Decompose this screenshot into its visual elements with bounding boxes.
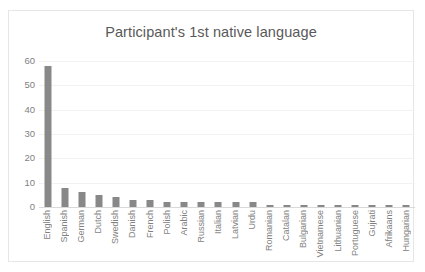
bar-slot (124, 61, 141, 207)
bar[interactable] (164, 202, 171, 207)
bar-slot (398, 61, 415, 207)
bar[interactable] (78, 192, 85, 207)
x-axis-tick-label-text: Russian (197, 210, 206, 243)
x-axis-tick-slot: Lithuanian (330, 210, 347, 272)
x-axis-tick-label: Italian (214, 210, 223, 234)
bar[interactable] (386, 205, 393, 207)
x-axis-tick-label-text: Hungarian (402, 210, 411, 252)
y-axis: 0102030405060 (9, 61, 35, 207)
x-axis-tick-label-text: Lithuanian (334, 210, 343, 252)
x-axis-tick-label: Arabic (180, 210, 189, 236)
x-axis-tick-slot: Swedish (107, 210, 124, 272)
chart-title: Participant's 1st native language (9, 24, 413, 40)
x-axis-tick-label: Gujrati (368, 210, 377, 237)
x-axis-tick-label: Vietnamese (316, 210, 325, 257)
x-axis-tick-slot: Polish (159, 210, 176, 272)
x-axis-tick-slot: Vietnamese (312, 210, 329, 272)
x-axis-line (39, 207, 415, 208)
bar[interactable] (300, 205, 307, 207)
x-axis-tick-label: Swedish (111, 210, 120, 244)
x-axis-tick-label: Spanish (60, 210, 69, 243)
x-axis-tick-slot: Catalan (278, 210, 295, 272)
x-axis-tick-label: Russian (197, 210, 206, 243)
x-axis-tick-label-text: Italian (214, 210, 223, 234)
x-axis-tick-slot: Gujrati (364, 210, 381, 272)
y-axis-tick-label: 10 (9, 178, 35, 188)
x-axis: EnglishSpanishGermanDutchSwedishDanishFr… (39, 210, 415, 272)
bar[interactable] (129, 200, 136, 207)
x-axis-tick-label: Polish (163, 210, 172, 235)
bar-slot (312, 61, 329, 207)
x-axis-tick-label-text: French (146, 210, 155, 238)
x-axis-tick-label: Hungarian (402, 210, 411, 252)
x-axis-tick-label-text: Spanish (60, 210, 69, 243)
bar-slot (39, 61, 56, 207)
x-axis-tick-slot: Afrikaans (381, 210, 398, 272)
chart-container: Participant's 1st native language 010203… (8, 10, 414, 262)
x-axis-tick-slot: Dutch (90, 210, 107, 272)
x-axis-tick-slot: Romanian (261, 210, 278, 272)
x-axis-tick-label-text: Portuguese (351, 210, 360, 256)
x-axis-tick-slot: Bulgarian (295, 210, 312, 272)
bar-slot (227, 61, 244, 207)
y-axis-tick-label: 60 (9, 56, 35, 66)
bar-slot (176, 61, 193, 207)
x-axis-tick-slot: Russian (193, 210, 210, 272)
x-axis-tick-label-text: Polish (163, 210, 172, 235)
x-axis-tick-slot: Latvian (227, 210, 244, 272)
bar[interactable] (215, 202, 222, 207)
x-axis-tick-label-text: Swedish (111, 210, 120, 244)
bar[interactable] (249, 202, 256, 207)
x-axis-tick-slot: Portuguese (347, 210, 364, 272)
x-axis-tick-slot: Danish (124, 210, 141, 272)
x-axis-tick-label-text: Romanian (265, 210, 274, 251)
x-axis-tick-label: German (77, 210, 86, 243)
x-axis-tick-slot: English (39, 210, 56, 272)
y-axis-tick-label: 0 (9, 202, 35, 212)
bar[interactable] (369, 205, 376, 207)
x-axis-tick-label-text: Arabic (180, 210, 189, 236)
x-axis-tick-label-text: English (43, 210, 52, 240)
bar[interactable] (335, 205, 342, 207)
y-axis-tick-label: 20 (9, 154, 35, 164)
x-axis-tick-slot: Italian (210, 210, 227, 272)
x-axis-tick-slot: Arabic (176, 210, 193, 272)
bar[interactable] (232, 202, 239, 207)
bar-slot (73, 61, 90, 207)
bar[interactable] (181, 202, 188, 207)
x-axis-tick-slot: Urdu (244, 210, 261, 272)
bar-slot (244, 61, 261, 207)
x-axis-tick-slot: French (142, 210, 159, 272)
x-axis-tick-label-text: Urdu (248, 210, 257, 230)
bar[interactable] (198, 202, 205, 207)
x-axis-tick-label-text: Gujrati (368, 210, 377, 237)
x-axis-tick-label: Bulgarian (299, 210, 308, 248)
x-axis-tick-label-text: Danish (128, 210, 137, 238)
bar-slot (347, 61, 364, 207)
bar[interactable] (112, 197, 119, 207)
bar[interactable] (283, 205, 290, 207)
bar[interactable] (44, 66, 51, 207)
bar[interactable] (403, 205, 410, 207)
bar-slot (159, 61, 176, 207)
x-axis-tick-label: Romanian (265, 210, 274, 251)
bar-slot (295, 61, 312, 207)
x-axis-tick-label: Afrikaans (385, 210, 394, 248)
y-axis-tick-label: 30 (9, 129, 35, 139)
y-axis-tick-label: 50 (9, 81, 35, 91)
x-axis-tick-slot: Hungarian (398, 210, 415, 272)
bar[interactable] (147, 200, 154, 207)
bar-slot (330, 61, 347, 207)
bar-slot (193, 61, 210, 207)
bar[interactable] (95, 195, 102, 207)
x-axis-tick-label: Urdu (248, 210, 257, 230)
x-axis-tick-label: English (43, 210, 52, 240)
bar[interactable] (317, 205, 324, 207)
x-axis-tick-label: French (146, 210, 155, 238)
x-axis-tick-label-text: Afrikaans (385, 210, 394, 248)
x-axis-tick-label: Portuguese (351, 210, 360, 256)
bar[interactable] (61, 188, 68, 207)
bar[interactable] (352, 205, 359, 207)
bar[interactable] (266, 205, 273, 207)
x-axis-tick-label: Lithuanian (334, 210, 343, 252)
